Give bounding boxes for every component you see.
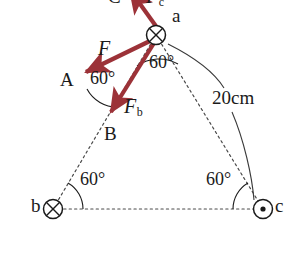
conductor-c-marker [254,200,273,219]
vector-label-F: F [98,38,110,58]
dimension-leader-upper [168,44,224,88]
conductor-label-c: c [275,196,283,215]
conductor-label-b: b [31,196,41,215]
vector-label-F-c-subscript: c [159,0,164,9]
vector-label-F-c: Fc [146,0,164,8]
angle-value-at-a: 60 [149,52,167,72]
dimension-label-side-length: 20cm [212,88,254,107]
angle-unit-at-A: ° [108,68,115,88]
figure-canvas: a b c A B C F Fb Fc 60° 60° 60° 60° 20cm [0,0,306,254]
angle-label-at-A: 60° [90,69,115,87]
angle-unit-at-a: ° [167,52,174,72]
angle-arc-at-c [233,183,248,209]
angle-label-at-a: 60° [149,53,174,71]
angle-label-at-c: 60° [206,170,231,188]
point-label-A: A [60,70,74,89]
point-label-B: B [104,124,117,143]
vector-label-F-b-subscript: b [137,105,143,119]
conductor-label-a: a [172,6,180,25]
force-diagram-svg [0,0,306,254]
angle-label-at-b: 60° [80,170,105,188]
angle-unit-at-b: ° [98,169,105,189]
force-vectors [86,0,158,112]
point-label-C: C [108,0,121,6]
vector-label-F-b: Fb [124,96,143,118]
vector-label-F-text: F [98,37,110,59]
vector-label-F-c-text: F [146,0,158,7]
angle-unit-at-c: ° [224,169,231,189]
vector-label-F-b-text: F [124,95,136,117]
conductor-b-marker [44,200,63,219]
angle-value-at-c: 60 [206,169,224,189]
angle-value-at-b: 60 [80,169,98,189]
angle-value-at-A: 60 [90,68,108,88]
conductor-a-marker [147,26,166,45]
